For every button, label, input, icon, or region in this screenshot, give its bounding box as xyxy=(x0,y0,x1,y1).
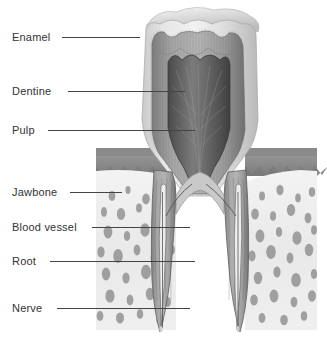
label-enamel: Enamel xyxy=(12,32,51,43)
label-jawbone: Jawbone xyxy=(12,187,57,198)
leader-line-enamel xyxy=(62,37,140,38)
tooth-illustration xyxy=(0,0,327,338)
leader-line-pulp xyxy=(48,130,195,131)
tooth-diagram: Enamel Dentine Pulp Jawbone Blood vessel… xyxy=(0,0,327,338)
leader-line-blood-vessel xyxy=(92,227,190,228)
leader-line-dentine xyxy=(68,91,185,92)
leader-line-nerve xyxy=(57,308,190,309)
leader-line-root xyxy=(50,261,195,262)
label-dentine: Dentine xyxy=(12,86,51,97)
label-blood-vessel: Blood vessel xyxy=(12,222,77,233)
label-pulp: Pulp xyxy=(12,125,35,136)
label-root: Root xyxy=(12,256,36,267)
leader-line-jawbone xyxy=(70,192,122,193)
label-nerve: Nerve xyxy=(12,303,42,314)
